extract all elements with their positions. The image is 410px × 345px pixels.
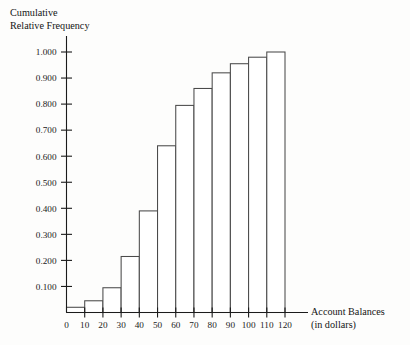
x-tick-label-30: 30 <box>117 320 127 330</box>
x-tick-label-90: 90 <box>226 320 236 330</box>
x-tick-label-50: 50 <box>153 320 163 330</box>
bar-60 <box>158 146 176 313</box>
bar-50 <box>139 211 157 313</box>
y-tick-label-0.200: 0.200 <box>36 256 57 266</box>
y-tick-label-0.300: 0.300 <box>36 230 57 240</box>
x-tick-label-10: 10 <box>80 320 90 330</box>
plot-area: 0.1000.2000.3000.4000.5000.6000.7000.800… <box>0 0 410 345</box>
cumulative-relative-frequency-chart: Cumulative Relative Frequency Account Ba… <box>0 0 410 345</box>
bar-40 <box>121 256 139 312</box>
x-tick-label-60: 60 <box>171 320 181 330</box>
y-tick-label-0.700: 0.700 <box>36 125 57 135</box>
bar-80 <box>194 88 212 312</box>
y-tick-label-0.600: 0.600 <box>36 152 57 162</box>
x-tick-label-70: 70 <box>189 320 199 330</box>
x-tick-label-100: 100 <box>242 320 256 330</box>
bar-70 <box>176 105 194 312</box>
x-tick-label-40: 40 <box>135 320 145 330</box>
bar-20 <box>85 301 103 313</box>
y-tick-label-0.900: 0.900 <box>36 73 57 83</box>
bar-100 <box>230 64 248 313</box>
bar-10 <box>67 307 85 312</box>
bars-group <box>67 52 286 313</box>
y-tick-label-0.100: 0.100 <box>36 282 57 292</box>
bar-30 <box>103 288 121 313</box>
bar-90 <box>212 73 230 313</box>
y-tick-label-0.400: 0.400 <box>36 204 57 214</box>
bar-120 <box>267 52 285 313</box>
y-tick-label-0.800: 0.800 <box>36 99 57 109</box>
x-tick-label-80: 80 <box>208 320 218 330</box>
x-tick-label-110: 110 <box>260 320 274 330</box>
y-tick-label-1.000: 1.000 <box>36 47 57 57</box>
x-tick-label-120: 120 <box>278 320 292 330</box>
x-tick-label-20: 20 <box>98 320 108 330</box>
bar-110 <box>249 57 267 312</box>
x-tick-label-0: 0 <box>64 320 69 330</box>
y-tick-label-0.500: 0.500 <box>36 178 57 188</box>
